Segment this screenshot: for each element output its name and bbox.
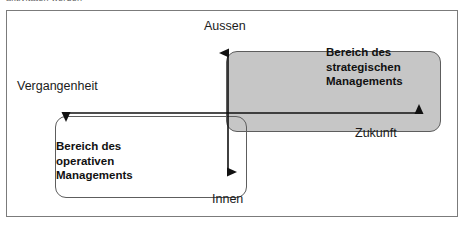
axis-label-aussen: Aussen: [204, 19, 246, 34]
region-operative-line-1: Bereich des: [56, 139, 133, 154]
region-strategic-line-2: strategischen: [326, 60, 403, 75]
region-operative-line-2: operativen: [56, 154, 133, 169]
region-operative-line-3: Managements: [56, 168, 133, 183]
axis-label-innen: Innen: [212, 192, 243, 207]
axis-label-zukunft: Zukunft: [355, 126, 397, 141]
diagram-page: aktivitäten werden Aussen: [0, 0, 465, 226]
region-strategic-line-1: Bereich des: [326, 45, 403, 60]
region-strategic-management-label: Bereich des strategischen Managements: [326, 45, 403, 89]
region-strategic-line-3: Managements: [326, 74, 403, 89]
axis-label-vergangenheit: Vergangenheit: [17, 79, 98, 94]
region-operative-management-label: Bereich des operativen Managements: [56, 139, 133, 183]
